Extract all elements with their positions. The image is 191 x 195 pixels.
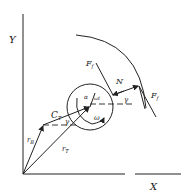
omega-label: ω [94,114,100,122]
c-t-label: CT [51,110,62,121]
vector-r-b [23,126,43,174]
alpha-label: α [84,93,88,100]
x-axis-label: X [149,181,158,192]
r-b-label: rB [27,136,34,145]
mechanics-diagram: Y X rB rT CT γ γ α ωt ω Ff N Ff [0,0,191,195]
y-axis-label: Y [9,34,17,45]
omega-t-label: ωt [94,95,101,101]
rotation-arc [77,98,104,124]
tangent-line [139,86,145,109]
force-n-counter [113,91,124,95]
f-f-right-label: Ff [150,91,160,102]
gamma-left-label: γ [65,118,70,126]
force-f-f-upper-line [96,63,113,95]
r-t-label: rT [62,145,69,154]
f-f-upper-label: Ff [85,59,95,70]
gamma-right-label: γ [124,96,129,104]
n-label: N [115,77,124,86]
